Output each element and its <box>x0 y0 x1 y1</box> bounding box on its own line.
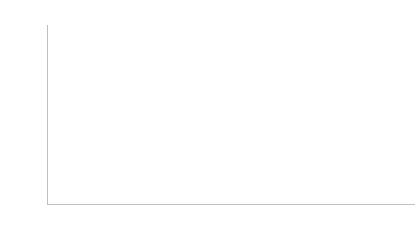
chart-subtitle <box>0 13 420 20</box>
x-axis-labels <box>47 207 415 251</box>
chart-container <box>0 0 420 251</box>
plot-area <box>47 25 415 205</box>
bar-group <box>47 25 415 205</box>
